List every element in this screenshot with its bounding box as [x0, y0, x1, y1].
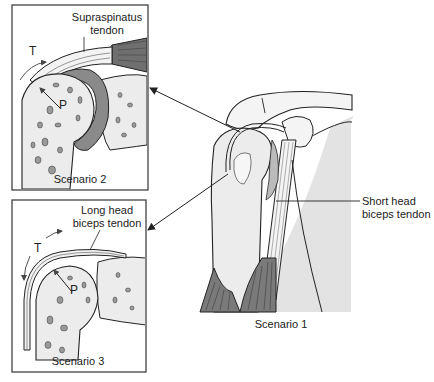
short-head-label-line2: biceps tendon — [362, 208, 431, 221]
long-head-label: Long head biceps tendon — [62, 204, 152, 229]
diagram-stage: Supraspinatus tendon T P Scenario 2 Long… — [0, 0, 434, 382]
caption-scenario-2: Scenario 2 — [40, 173, 120, 186]
diagram-artwork — [0, 0, 434, 382]
main-shoulder-view — [200, 92, 353, 313]
long-head-label-line1: Long head — [62, 204, 152, 217]
supraspinatus-label: Supraspinatus tendon — [62, 11, 152, 36]
arrow-to-scenario-2 — [150, 88, 240, 132]
supraspinatus-label-line1: Supraspinatus — [62, 11, 152, 24]
pressure-symbol-top: P — [59, 98, 67, 112]
supraspinatus-label-line2: tendon — [62, 24, 152, 37]
short-head-label-line1: Short head — [362, 195, 431, 208]
tension-symbol-bottom: T — [34, 241, 41, 255]
pressure-symbol-bottom: P — [70, 283, 78, 297]
long-head-label-line2: biceps tendon — [62, 217, 152, 230]
caption-scenario-1: Scenario 1 — [246, 318, 316, 331]
caption-scenario-3: Scenario 3 — [38, 355, 118, 368]
short-head-label: Short head biceps tendon — [362, 195, 431, 220]
tension-symbol-top: T — [29, 44, 36, 58]
